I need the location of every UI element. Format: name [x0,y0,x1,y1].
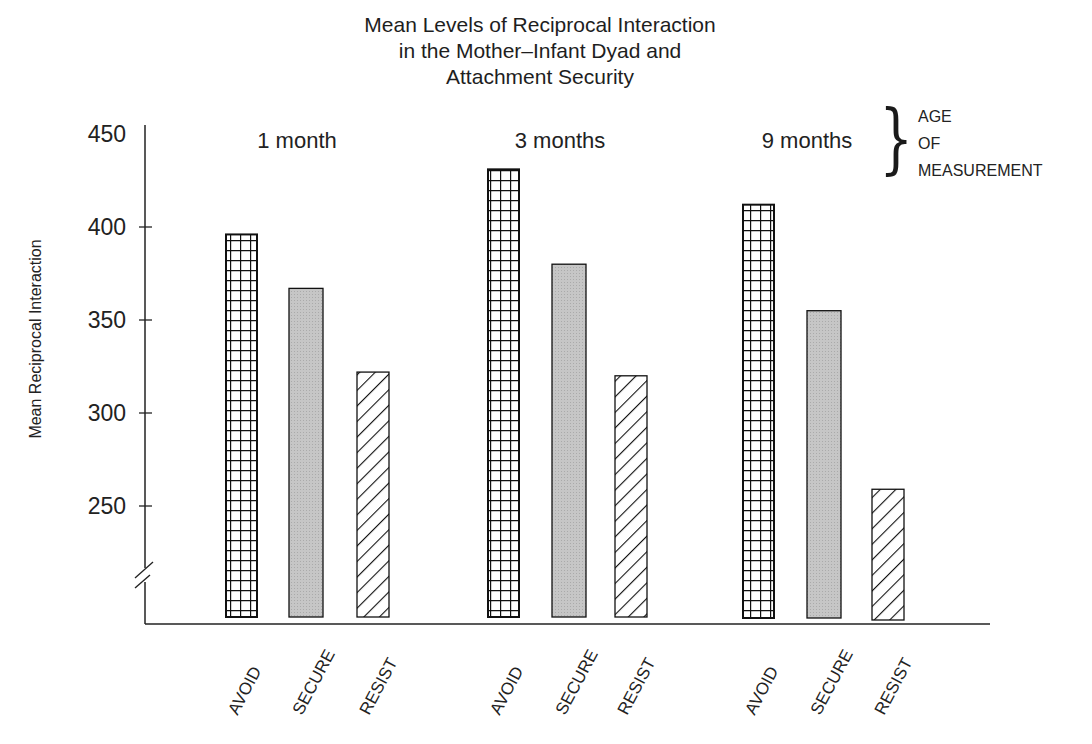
x-category-label: SECURE [552,646,602,717]
x-category-label: SECURE [289,646,339,717]
x-category-label: RESIST [871,655,917,718]
y-tick-label: 250 [88,493,126,519]
bar-resist [872,489,904,620]
bar-avoid [488,169,519,617]
bar-avoid [226,234,257,617]
group-label: 9 months [762,128,853,153]
y-tick-label: 350 [88,307,126,333]
bar-chart: 250300350400450 1 monthAVOIDSECURERESIST… [0,0,1092,744]
bar-secure [289,288,323,617]
bar-secure [807,311,841,618]
bar-resist [615,376,647,617]
x-category-label: RESIST [356,655,402,718]
y-tick-label: 300 [88,400,126,426]
x-category-label: AVOID [224,663,265,718]
bar-avoid [743,205,774,618]
x-category-label: AVOID [741,663,782,718]
x-category-label: RESIST [614,655,660,718]
x-category-label: AVOID [486,663,527,718]
bar-resist [357,372,389,617]
group-label: 3 months [515,128,606,153]
y-tick-label: 400 [88,214,126,240]
x-category-label: SECURE [807,646,857,717]
y-tick-label: 450 [88,121,126,147]
bar-secure [552,264,586,617]
group-label: 1 month [257,128,337,153]
